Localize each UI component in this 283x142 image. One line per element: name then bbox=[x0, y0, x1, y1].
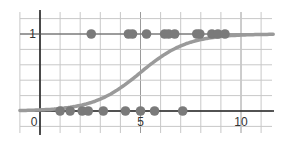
data-point bbox=[65, 106, 75, 116]
data-point bbox=[170, 29, 180, 39]
x-tick-label: 0 bbox=[31, 115, 38, 129]
data-point bbox=[195, 29, 205, 39]
data-point bbox=[99, 106, 109, 116]
data-point bbox=[142, 29, 152, 39]
data-point bbox=[128, 29, 138, 39]
data-point bbox=[121, 106, 131, 116]
x-tick-label: 10 bbox=[234, 115, 248, 129]
x-tick-label: 5 bbox=[137, 115, 144, 129]
logistic-regression-chart: 05101 bbox=[0, 0, 283, 142]
data-point bbox=[83, 106, 93, 116]
data-point bbox=[150, 106, 160, 116]
logistic-curve bbox=[20, 34, 273, 110]
data-point bbox=[178, 106, 188, 116]
data-point bbox=[86, 29, 96, 39]
data-point bbox=[220, 29, 230, 39]
data-point bbox=[55, 106, 65, 116]
y-tick-label: 1 bbox=[29, 27, 36, 41]
